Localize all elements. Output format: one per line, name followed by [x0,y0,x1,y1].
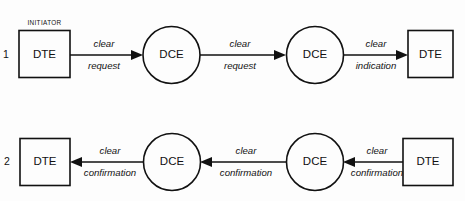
edge-r1-edge-2: clear request [200,38,286,71]
edge-label-line2: indication [356,60,397,71]
row-number-1: 1 [3,48,9,60]
diagram-row-2: 2 DTE clear confirmation DCE [4,134,453,191]
edge-r1-edge-3: clear indication [343,38,408,71]
node-r2-dte-right: DTE [403,139,453,186]
edge-r1-edge-1: clear request [70,38,143,71]
call-clearing-diagram: 1 INITIATOR DTE clear request DCE [0,0,465,201]
edge-r2-edge-1: clear confirmation [70,145,144,178]
edge-label-line2: confirmation [84,167,136,178]
arrow-head-icon [343,157,355,167]
node-r2-dce-1: DCE [144,134,201,191]
edge-label-line2: request [224,60,256,71]
node-label: DCE [160,155,185,167]
arrow-head-icon [274,50,286,60]
initiator-annotation: INITIATOR [27,19,61,26]
node-label: DTE [34,155,57,167]
edge-label-line1: clear [94,38,116,49]
node-label: DCE [303,155,328,167]
edge-r2-edge-3: clear confirmation [343,145,403,178]
node-r2-dce-2: DCE [287,134,344,191]
node-r1-dte-right: DTE [408,31,453,78]
node-r2-dte-left: DTE [20,139,70,186]
edge-r2-edge-2: clear confirmation [200,145,286,178]
node-label: DTE [417,155,440,167]
edge-label-line2: request [88,60,120,71]
edge-label-line2: confirmation [351,167,403,178]
arrow-head-icon [131,50,143,60]
node-r1-dte-left: DTE [19,31,70,78]
node-label: DTE [419,48,442,60]
row-number-2: 2 [4,155,10,167]
edge-label-line1: clear [366,38,388,49]
node-label: DTE [33,48,56,60]
diagram-row-1: 1 INITIATOR DTE clear request DCE [3,19,453,84]
edge-label-line1: clear [236,145,258,156]
edge-label-line2: confirmation [220,167,272,178]
node-label: DCE [159,48,184,60]
arrow-head-icon [200,157,212,167]
node-r1-dce-2: DCE [287,27,344,84]
node-label: DCE [303,48,328,60]
edge-label-line1: clear [100,145,122,156]
edge-label-line1: clear [367,145,389,156]
edge-label-line1: clear [230,38,252,49]
arrow-head-icon [396,50,408,60]
arrow-head-icon [70,157,82,167]
node-r1-dce-1: DCE [143,27,200,84]
